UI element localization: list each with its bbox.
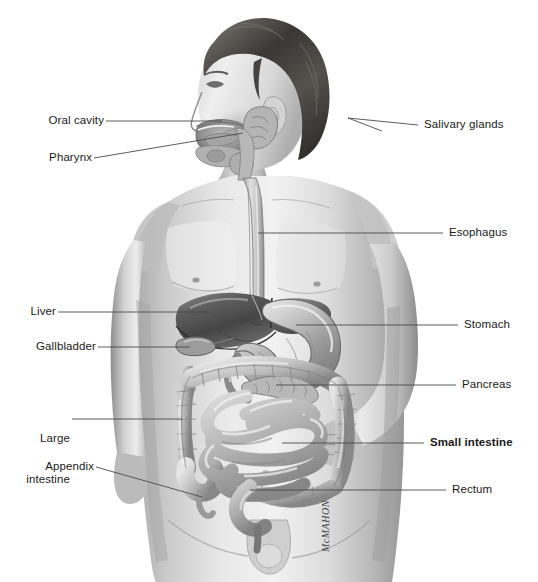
leader-line-salivary-glands xyxy=(348,118,418,125)
label-salivary-glands: Salivary glands xyxy=(424,118,503,132)
label-pancreas: Pancreas xyxy=(462,378,511,392)
label-pharynx: Pharynx xyxy=(0,151,92,165)
label-liver: Liver xyxy=(0,305,56,319)
anal-canal xyxy=(257,528,258,550)
label-stomach: Stomach xyxy=(464,318,510,332)
pectoral-left xyxy=(166,221,236,290)
sublingual-gland xyxy=(207,150,225,162)
label-oral-cavity: Oral cavity xyxy=(0,114,104,128)
label-appendix: Appendix xyxy=(0,460,94,474)
label-esophagus: Esophagus xyxy=(449,226,507,240)
label-small-intestine: Small intestine xyxy=(430,436,513,450)
label-gallbladder: Gallbladder xyxy=(0,340,96,354)
label-rectum: Rectum xyxy=(452,483,492,497)
label-large-intestine-line1: Large xyxy=(0,432,70,446)
pectoral-right xyxy=(276,221,346,294)
label-large-intestine: Large intestine xyxy=(0,405,70,513)
nipple-left xyxy=(192,277,199,282)
artist-signature: McMAHON xyxy=(320,500,331,552)
digestive-system-figure: Oral cavity Pharynx Liver Gallbladder La… xyxy=(0,0,538,582)
label-large-intestine-line2: intestine xyxy=(0,473,70,487)
nipple-right xyxy=(313,281,320,286)
